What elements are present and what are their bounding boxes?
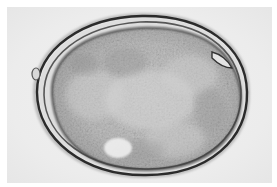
microscopy-image xyxy=(0,0,277,187)
egg-illustration xyxy=(0,0,277,187)
bright-vesicle xyxy=(104,138,132,158)
shell-knob xyxy=(32,68,40,80)
